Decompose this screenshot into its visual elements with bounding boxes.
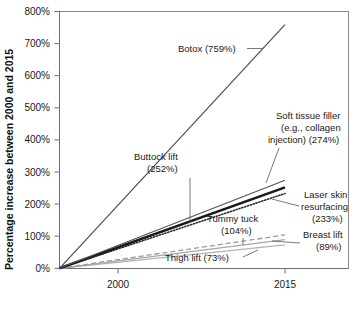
annotation-soft-filler-line3: injection) (274%) xyxy=(268,134,339,145)
x-axis-ticks: 2000 2015 xyxy=(107,269,297,291)
chart-container: Percentage increase between 2000 and 201… xyxy=(0,0,360,313)
annotation-tummy-line2: (104%) xyxy=(221,225,252,236)
annotation-botox-label: Botox (759%) xyxy=(178,43,236,54)
annotation-soft-filler-line2: (e.g., collagen xyxy=(281,122,341,133)
annotation-buttock-line1: Buttock lift xyxy=(134,151,178,162)
annotation-buttock-lift: Buttock lift (252%) xyxy=(134,151,190,222)
y-tick-label-700: 700% xyxy=(24,38,50,49)
annotation-thigh-line1: Thigh lift (73%) xyxy=(165,252,229,263)
y-tick-label-0: 0% xyxy=(36,263,51,274)
y-axis-ticks: 800% 700% 600% 500% 400% 300% 200% 100% … xyxy=(24,6,59,274)
y-tick-label-200: 200% xyxy=(24,199,50,210)
annotation-breast-leader xyxy=(272,241,300,243)
annotation-laser-line3: (233%) xyxy=(312,213,343,224)
annotation-buttock-line2: (252%) xyxy=(147,163,178,174)
x-tick-label-2015: 2015 xyxy=(274,279,297,290)
annotation-soft-filler-leader xyxy=(266,148,279,183)
annotation-breast-line1: Breast lift xyxy=(303,229,343,240)
y-tick-label-300: 300% xyxy=(24,167,50,178)
y-tick-label-600: 600% xyxy=(24,70,50,81)
annotation-soft-tissue-filler: Soft tissue filler (e.g., collagen injec… xyxy=(266,110,341,183)
y-tick-label-800: 800% xyxy=(24,6,50,17)
annotation-thigh-leader xyxy=(243,250,258,257)
y-tick-label-100: 100% xyxy=(24,231,50,242)
annotation-tummy-line1: Tummy tuck xyxy=(207,213,259,224)
annotation-breast-line2: (89%) xyxy=(316,241,341,252)
annotation-botox: Botox (759%) xyxy=(178,43,262,54)
annotation-soft-filler-line1: Soft tissue filler xyxy=(276,110,340,121)
annotation-laser-leader xyxy=(272,199,299,206)
y-tick-label-400: 400% xyxy=(24,134,50,145)
y-axis-title: Percentage increase between 2000 and 201… xyxy=(3,49,15,270)
y-tick-label-500: 500% xyxy=(24,102,50,113)
percentage-increase-line-chart: Percentage increase between 2000 and 201… xyxy=(0,0,360,313)
x-tick-label-2000: 2000 xyxy=(107,279,130,290)
annotation-laser-line2: resurfacing xyxy=(301,201,348,212)
annotation-laser-line1: Laser skin xyxy=(304,189,347,200)
annotation-thigh-lift: Thigh lift (73%) xyxy=(165,250,258,263)
